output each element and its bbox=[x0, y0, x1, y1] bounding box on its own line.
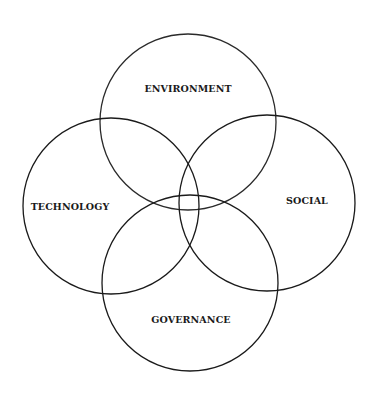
venn-diagram: ENVIRONMENT TECHNOLOGY SOCIAL GOVERNANCE bbox=[0, 0, 375, 398]
circle-environment bbox=[100, 34, 276, 210]
label-technology: TECHNOLOGY bbox=[31, 201, 110, 212]
circle-social bbox=[179, 115, 355, 291]
label-environment: ENVIRONMENT bbox=[144, 83, 231, 94]
circle-governance bbox=[102, 195, 278, 371]
label-social: SOCIAL bbox=[286, 195, 328, 206]
label-governance: GOVERNANCE bbox=[151, 314, 230, 325]
